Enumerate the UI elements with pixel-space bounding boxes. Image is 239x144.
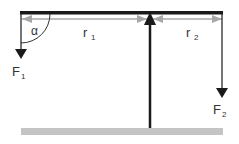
- ground-bar: [21, 128, 223, 135]
- r2-label: r: [186, 25, 191, 40]
- f2-label: F: [213, 102, 221, 117]
- r1-subscript: 1: [91, 33, 96, 42]
- dimension-lines: [22, 15, 222, 23]
- f1-label: F: [12, 64, 20, 79]
- alpha-label: α: [31, 24, 38, 38]
- r2-right-arrowhead-icon: [212, 15, 222, 23]
- f1-subscript: 1: [21, 72, 26, 81]
- r1-label: r: [83, 25, 88, 40]
- f2-arrowhead-icon: [216, 88, 228, 98]
- lever-beam: [20, 11, 223, 15]
- lever-diagram: α r 1 r 2 F 1 F 2: [0, 0, 239, 144]
- r1-left-arrowhead-icon: [22, 15, 32, 23]
- f1-arrowhead-icon: [15, 49, 27, 59]
- r2-subscript: 2: [194, 33, 199, 42]
- f2-subscript: 2: [222, 110, 227, 119]
- lever-svg: α r 1 r 2 F 1 F 2: [0, 0, 239, 144]
